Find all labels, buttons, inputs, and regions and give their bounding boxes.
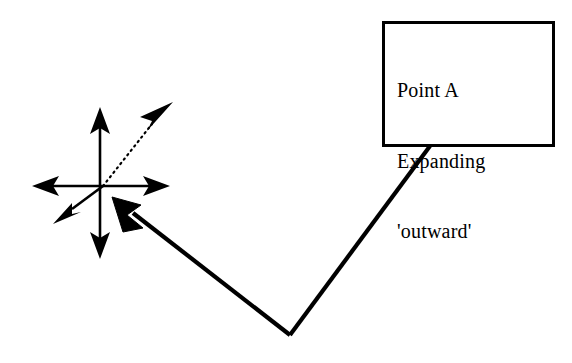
expansion-arrow-right: [103, 176, 170, 196]
diagram-canvas: Point A Expanding 'outward': [0, 0, 572, 363]
leader-line: [112, 146, 430, 335]
expansion-arrow-down: [90, 186, 110, 259]
expansion-arrow-down-left: [53, 186, 103, 224]
leader-line-segment-vertex-to-point-a: [133, 213, 290, 335]
callout-box[interactable]: [384, 23, 554, 146]
point-a-star[interactable]: [32, 102, 173, 259]
point-a-expansion-diagram: [0, 0, 572, 363]
expansion-arrow-up-right-dotted: [103, 102, 173, 186]
leader-line-segment-box-to-vertex: [290, 146, 430, 335]
expansion-arrow-up: [90, 107, 110, 186]
